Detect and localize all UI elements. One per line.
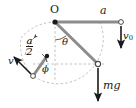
label-rod-length-a: a (100, 5, 107, 16)
label-pivot-O: O (50, 4, 59, 15)
label-v0-subscript: 0 (129, 34, 133, 42)
physics-figure: O a v0 mg θ ϕ v a 2 (0, 0, 136, 108)
label-mg-weight: mg (103, 80, 120, 91)
pivot-point-marker (52, 19, 57, 24)
label-theta-angle: θ (62, 37, 68, 47)
label-half-length-fraction: a 2 (26, 36, 33, 57)
v-velocity-arrow (14, 57, 31, 74)
label-v0-velocity: v0 (123, 31, 133, 42)
lower-left-end-marker (31, 74, 36, 79)
label-phi-angle: ϕ (42, 64, 49, 74)
upper-right-end-marker (119, 20, 124, 25)
label-v-velocity: v (8, 56, 14, 66)
fraction-denominator: 2 (26, 47, 33, 57)
mid-node-marker (45, 54, 49, 58)
lower-right-mass-marker (95, 61, 100, 66)
fraction-numerator: a (26, 36, 33, 46)
